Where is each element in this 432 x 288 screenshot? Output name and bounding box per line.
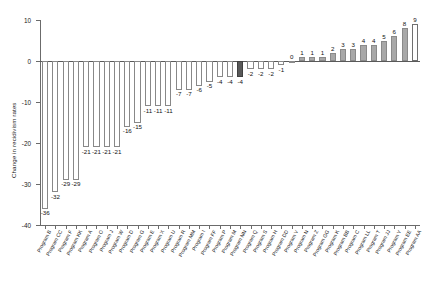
- bar: [104, 61, 110, 147]
- bar-value-label: -2: [268, 70, 274, 77]
- bar-value-label: -21: [92, 148, 101, 155]
- bar-value-label: -29: [71, 180, 80, 187]
- bar: [340, 49, 346, 61]
- bar: [360, 45, 366, 61]
- bar-value-label: -21: [82, 148, 91, 155]
- y-tick-label: -20: [22, 140, 31, 147]
- x-tick: [261, 225, 262, 229]
- bar-value-label: 1: [300, 49, 303, 56]
- bar: [402, 28, 408, 61]
- bar-value-label: 1: [321, 49, 324, 56]
- bar: [93, 61, 99, 147]
- bar-value-label: -6: [196, 86, 202, 93]
- x-tick: [415, 225, 416, 229]
- bar-value-label: -7: [176, 90, 182, 97]
- x-tick: [107, 225, 108, 229]
- bar: [176, 61, 182, 90]
- bar: [237, 61, 243, 77]
- bar-value-label: 6: [393, 28, 396, 35]
- bar-value-label: -16: [123, 127, 132, 134]
- bar: [217, 61, 223, 77]
- x-tick: [55, 225, 56, 229]
- bar-value-label: -11: [164, 107, 172, 114]
- bar-value-label: -2: [258, 70, 264, 77]
- bar: [83, 61, 89, 147]
- bar: [299, 57, 305, 61]
- bar-value-label: -7: [186, 90, 192, 97]
- x-tick: [364, 225, 365, 229]
- bar-value-label: -32: [51, 193, 60, 200]
- x-tick: [251, 225, 252, 229]
- bar-value-label: -11: [144, 107, 152, 114]
- bar: [309, 57, 315, 61]
- y-tick: -20: [36, 143, 40, 144]
- bar-value-label: -1: [279, 66, 285, 73]
- bar-value-label: -4: [238, 78, 244, 85]
- x-tick: [179, 225, 180, 229]
- x-tick: [394, 225, 395, 229]
- y-tick: 10: [36, 20, 40, 21]
- y-axis-title: Change in recidivism rates: [2, 0, 9, 60]
- bar-value-label: 0: [290, 53, 293, 60]
- bar: [63, 61, 69, 180]
- y-axis-line: [40, 20, 41, 225]
- x-tick: [189, 225, 190, 229]
- bar: [155, 61, 161, 106]
- bar: [258, 61, 264, 69]
- x-tick: [281, 225, 282, 229]
- bar-value-label: -5: [207, 82, 213, 89]
- bar: [289, 61, 295, 63]
- bar-value-label: -21: [102, 148, 111, 155]
- bar-value-label: -11: [154, 107, 162, 114]
- y-tick-label: 10: [24, 17, 31, 24]
- x-tick: [374, 225, 375, 229]
- x-tick: [333, 225, 334, 229]
- bar: [134, 61, 140, 123]
- bar: [319, 57, 325, 61]
- bar: [381, 41, 387, 62]
- y-tick-label: 0: [27, 58, 31, 65]
- bar: [247, 61, 253, 69]
- bar: [206, 61, 212, 82]
- x-tick: [292, 225, 293, 229]
- bar: [330, 53, 336, 61]
- x-tick: [209, 225, 210, 229]
- x-tick: [76, 225, 77, 229]
- bar: [124, 61, 130, 127]
- bar: [278, 61, 284, 65]
- bar-value-label: 4: [372, 37, 375, 44]
- x-tick: [168, 225, 169, 229]
- bar-value-label: 2: [331, 45, 334, 52]
- bar-value-label: 1: [310, 49, 313, 56]
- bar-value-label: 3: [341, 41, 344, 48]
- bar: [165, 61, 171, 106]
- x-tick: [66, 225, 67, 229]
- bar: [114, 61, 120, 147]
- bar: [391, 36, 397, 61]
- bar: [350, 49, 356, 61]
- bar-value-label: -15: [133, 123, 142, 130]
- bar: [73, 61, 79, 180]
- bar: [42, 61, 48, 209]
- bar: [412, 24, 418, 61]
- bar-value-label: -21: [113, 148, 122, 155]
- bar-value-label: 5: [382, 33, 385, 40]
- bar: [145, 61, 151, 106]
- y-tick: -40: [36, 225, 40, 226]
- bar-value-label: -4: [227, 78, 233, 85]
- bar-value-label: -2: [248, 70, 254, 77]
- y-tick: -30: [36, 184, 40, 185]
- bar: [371, 45, 377, 61]
- y-tick: -10: [36, 102, 40, 103]
- bar: [196, 61, 202, 86]
- bar: [186, 61, 192, 90]
- x-tick: [322, 225, 323, 229]
- x-tick: [405, 225, 406, 229]
- bar-value-label: 3: [352, 41, 355, 48]
- x-tick: [220, 225, 221, 229]
- bar-value-label: -36: [41, 209, 50, 216]
- bar-value-label: -4: [217, 78, 223, 85]
- y-tick-label: -10: [22, 99, 31, 106]
- x-tick: [302, 225, 303, 229]
- y-tick-label: -40: [22, 222, 31, 229]
